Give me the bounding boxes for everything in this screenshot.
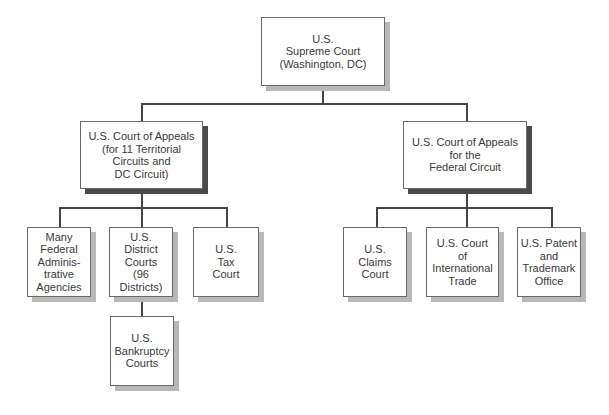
node-admin-agencies: Many Federal Adminis- trative Agencies <box>27 227 91 297</box>
connector-to-district-courts <box>141 207 143 227</box>
node-international-trade: U.S. Court of International Trade <box>426 227 499 297</box>
node-patent-office: U.S. Patent and Trademark Office <box>517 227 581 297</box>
connector-to-appeals-territorial <box>141 103 143 121</box>
node-court-of-appeals-territorial: U.S. Court of Appeals (for 11 Territoria… <box>80 121 203 189</box>
node-tax-court: U.S. Tax Court <box>193 227 259 297</box>
connector-to-international-trade <box>466 207 468 227</box>
node-district-courts: U.S. District Courts (96 Districts) <box>109 227 173 297</box>
connector-to-admin-agencies <box>59 207 61 227</box>
node-court-of-appeals-federal: U.S. Court of Appeals for the Federal Ci… <box>403 121 527 189</box>
connector-to-claims-court <box>376 207 378 227</box>
node-claims-court: U.S. Claims Court <box>343 227 407 297</box>
node-bankruptcy-courts: U.S. Bankruptcy Courts <box>110 316 174 386</box>
node-supreme-court: U.S. Supreme Court (Washington, DC) <box>261 17 385 86</box>
connector-left-level2-bar <box>59 207 228 209</box>
connector-to-bankruptcy-courts <box>141 297 143 316</box>
connector-appeals-territorial-down <box>141 189 143 209</box>
connector-to-tax-court <box>226 207 228 227</box>
connector-to-patent-office <box>551 207 553 227</box>
connector-right-level2-bar <box>376 207 553 209</box>
connector-appeals-federal-down <box>466 189 468 209</box>
connector-level1-bar <box>141 103 468 105</box>
connector-to-appeals-federal <box>466 103 468 121</box>
